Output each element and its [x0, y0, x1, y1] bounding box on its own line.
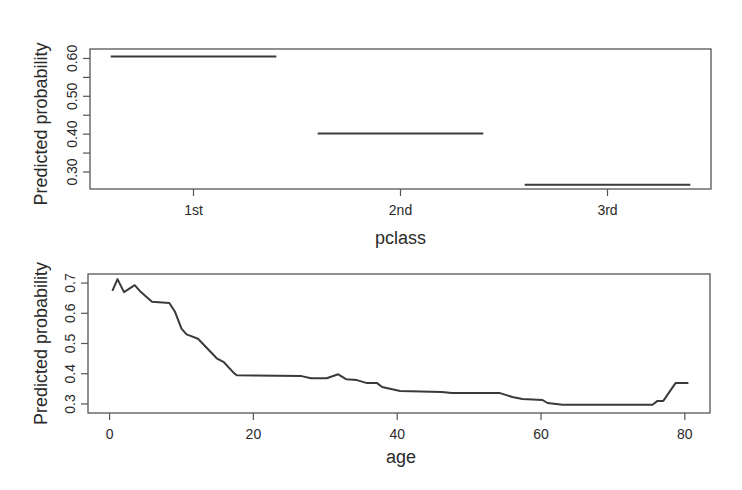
plot-frame	[88, 274, 710, 413]
y-tick-label: 0.30	[64, 158, 80, 185]
y-tick-label: 0.7	[62, 273, 78, 293]
x-tick-label: 2nd	[389, 202, 412, 218]
y-axis-label: Predicted probability	[31, 262, 51, 425]
x-tick-label: 40	[389, 426, 405, 442]
y-tick-label: 0.4	[62, 364, 78, 384]
x-axis: 1st2nd3rd	[184, 189, 617, 218]
y-tick-label: 0.60	[64, 45, 80, 72]
x-tick-label: 1st	[184, 202, 203, 218]
y-tick-label: 0.40	[64, 120, 80, 147]
y-axis: 0.300.400.500.60	[64, 45, 90, 186]
figure: 0.300.400.500.60 1st2nd3rd pclass Predic…	[0, 0, 742, 490]
age-effect-plot: 0.30.40.50.60.7 020406080 age Predicted …	[31, 262, 710, 467]
x-tick-label: 60	[533, 426, 549, 442]
prediction-curve	[112, 279, 688, 405]
y-tick-label: 0.5	[62, 334, 78, 354]
x-tick-label: 0	[106, 426, 114, 442]
y-axis: 0.30.40.50.60.7	[62, 273, 88, 414]
y-tick-label: 0.6	[62, 303, 78, 323]
y-axis-label: Predicted probability	[31, 42, 51, 205]
y-tick-label: 0.50	[64, 82, 80, 109]
x-axis: 020406080	[106, 413, 693, 442]
plot-frame	[90, 49, 711, 189]
x-axis-label: pclass	[375, 228, 426, 248]
x-tick-label: 80	[677, 426, 693, 442]
y-tick-label: 0.3	[62, 394, 78, 414]
prediction-segments	[111, 57, 691, 185]
x-tick-label: 3rd	[597, 202, 617, 218]
x-tick-label: 20	[246, 426, 262, 442]
x-axis-label: age	[386, 447, 416, 467]
pclass-effect-plot: 0.300.400.500.60 1st2nd3rd pclass Predic…	[31, 42, 711, 248]
